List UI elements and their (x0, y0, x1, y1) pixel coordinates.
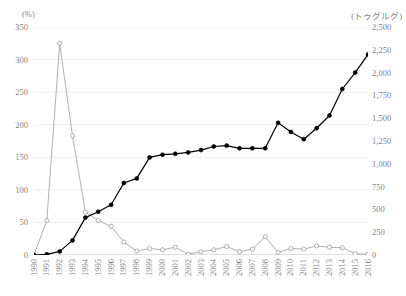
data-point (109, 224, 113, 228)
left-axis-tick-label: 100 (2, 185, 28, 195)
x-axis-tick-label: 2000 (158, 259, 167, 276)
left-axis-tick-label: 50 (2, 217, 28, 227)
chart-svg (34, 27, 368, 255)
left-axis-tick-label: 250 (2, 87, 28, 97)
x-axis-tick-label: 2011 (299, 259, 308, 276)
data-point (340, 246, 344, 250)
x-axis-tick-label: 2004 (209, 259, 218, 276)
x-axis-tick-label: 1999 (145, 259, 154, 276)
plot-area (34, 27, 368, 255)
x-axis-tick-label: 1991 (42, 259, 51, 276)
data-point (199, 148, 203, 152)
data-point (96, 218, 100, 222)
x-axis-tick-label: 1992 (55, 259, 64, 276)
data-point (302, 137, 306, 141)
left-axis-tick-label: 150 (2, 152, 28, 162)
x-axis-tick-label: 1995 (94, 259, 103, 276)
data-point (353, 71, 357, 75)
data-point (225, 144, 229, 148)
data-point (366, 52, 368, 56)
data-point (160, 248, 164, 252)
data-point (70, 134, 74, 138)
x-axis-tick-label: 2012 (312, 259, 321, 276)
data-point (83, 216, 87, 220)
x-axis-tick-label: 2006 (235, 259, 244, 276)
x-axis-tick-label: 1994 (81, 259, 90, 276)
data-point (109, 203, 113, 207)
data-point (302, 247, 306, 251)
data-point (250, 146, 254, 150)
x-axis-tick-label: 1993 (68, 259, 77, 276)
data-point (315, 244, 319, 248)
data-point (45, 218, 49, 222)
data-point (340, 87, 344, 91)
left-axis-tick-label: 300 (2, 55, 28, 65)
right-axis-tick-label: 250 (372, 227, 402, 237)
right-axis-tick-label: 500 (372, 204, 402, 214)
right-axis-tick-label: 0 (372, 250, 402, 260)
data-point (276, 250, 280, 254)
left-axis-unit-label: (%) (22, 9, 35, 19)
right-axis-tick-label: 1,250 (372, 136, 402, 146)
right-axis-tick-label: 1,750 (372, 90, 402, 100)
data-point (237, 250, 241, 254)
data-point (289, 246, 293, 250)
x-axis-tick-label: 1996 (107, 259, 116, 276)
x-axis-tick-label: 2001 (171, 259, 180, 276)
data-point (328, 114, 332, 118)
x-axis-tick-label: 1997 (119, 259, 128, 276)
data-point (122, 240, 126, 244)
data-point (276, 121, 280, 125)
x-axis-tick-label: 2003 (197, 259, 206, 276)
data-point (58, 41, 62, 45)
data-point (327, 245, 331, 249)
x-axis-tick-label: 2010 (286, 259, 295, 276)
x-axis-tick-label: 2013 (325, 259, 334, 276)
chart-container: (%) (トゥグルグ) 050100150200250300350 025050… (0, 0, 406, 296)
data-point (96, 210, 100, 214)
data-point (58, 249, 62, 253)
data-point (212, 145, 216, 149)
left-axis-tick-label: 200 (2, 120, 28, 130)
data-point (199, 250, 203, 254)
series-exchange-rate-tugrik (34, 52, 368, 255)
data-point (263, 146, 267, 150)
right-axis-tick-label: 750 (372, 182, 402, 192)
data-point (161, 153, 165, 157)
data-point (135, 176, 139, 180)
data-point (186, 150, 190, 154)
x-axis-tick-label: 1990 (30, 259, 39, 276)
data-point (173, 152, 177, 156)
data-point (225, 244, 229, 248)
right-axis-tick-label: 1,000 (372, 159, 402, 169)
x-axis-tick-label: 2009 (274, 259, 283, 276)
x-axis-tick-label: 1998 (132, 259, 141, 276)
x-axis-tick-label: 2005 (222, 259, 231, 276)
data-point (135, 249, 139, 253)
right-axis-tick-label: 2,250 (372, 45, 402, 55)
data-point (173, 245, 177, 249)
data-point (250, 247, 254, 251)
data-point (71, 238, 75, 242)
data-point (353, 252, 357, 255)
data-point (263, 235, 267, 239)
data-point (148, 246, 152, 250)
right-axis-tick-label: 2,000 (372, 68, 402, 78)
right-axis-tick-label: 1,500 (372, 113, 402, 123)
data-point (122, 181, 126, 185)
left-axis-tick-label: 0 (2, 250, 28, 260)
x-axis-tick-label: 2008 (261, 259, 270, 276)
data-point (186, 252, 190, 255)
right-axis-unit-label: (トゥグルグ) (351, 9, 402, 21)
data-point (238, 146, 242, 150)
x-axis-tick-label: 2007 (248, 259, 257, 276)
right-axis-tick-label: 2,500 (372, 22, 402, 32)
x-axis-tick-label: 2016 (364, 259, 373, 276)
x-axis-tick-label: 2015 (351, 259, 360, 276)
data-point (315, 126, 319, 130)
x-axis-tick-label: 2002 (184, 259, 193, 276)
data-point (45, 252, 49, 255)
data-point (366, 252, 368, 255)
data-point (212, 248, 216, 252)
x-axis-tick-label: 2014 (338, 259, 347, 276)
